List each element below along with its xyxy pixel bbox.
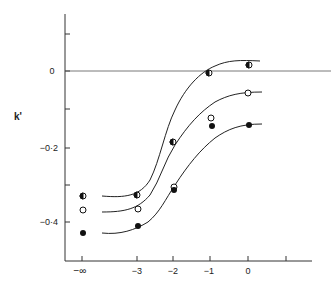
fitted-curves xyxy=(102,61,262,234)
series-open xyxy=(80,90,251,213)
point-half-m2 xyxy=(170,139,176,145)
y-axis-label: k' xyxy=(14,111,22,122)
point-filled-m3 xyxy=(135,223,141,229)
point-half-m1 xyxy=(206,70,212,76)
point-half-0 xyxy=(246,62,252,68)
x-tick-label-m3: −3 xyxy=(132,266,142,276)
y-tick-label-m0.2: −0·2 xyxy=(40,143,58,153)
curve-open xyxy=(102,92,262,212)
x-tick-label-0: 0 xyxy=(245,266,250,276)
x-tick-label-m2: −2 xyxy=(168,266,178,276)
point-half-inf xyxy=(80,193,86,199)
curve-filled xyxy=(102,124,262,233)
axes xyxy=(65,14,312,261)
y-tick-label-m0.4: −0·4 xyxy=(40,217,58,227)
point-open-0 xyxy=(245,90,251,96)
point-filled-m2 xyxy=(171,187,177,193)
series-half-filled xyxy=(80,62,252,199)
point-open-inf xyxy=(80,207,86,213)
series-filled xyxy=(80,122,252,236)
chart: k' 0 −0·2 −0·4 −∞ −3 −2 −1 0 xyxy=(0,0,332,296)
point-open-m3 xyxy=(135,206,141,212)
y-tick-label-0: 0 xyxy=(49,66,54,76)
point-open-m1 xyxy=(208,115,214,121)
point-filled-inf xyxy=(80,230,86,236)
point-filled-m1 xyxy=(209,123,215,129)
point-filled-0 xyxy=(246,122,252,128)
x-tick-label-m1: −1 xyxy=(204,266,214,276)
x-tick-label-inf: −∞ xyxy=(74,265,87,276)
point-half-m3 xyxy=(134,192,140,198)
